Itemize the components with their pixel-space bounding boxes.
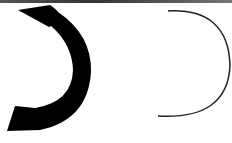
thin-arc-icon: [158, 11, 230, 116]
diagram-canvas: [0, 0, 232, 143]
thick-curved-arrow-icon: [7, 5, 91, 131]
